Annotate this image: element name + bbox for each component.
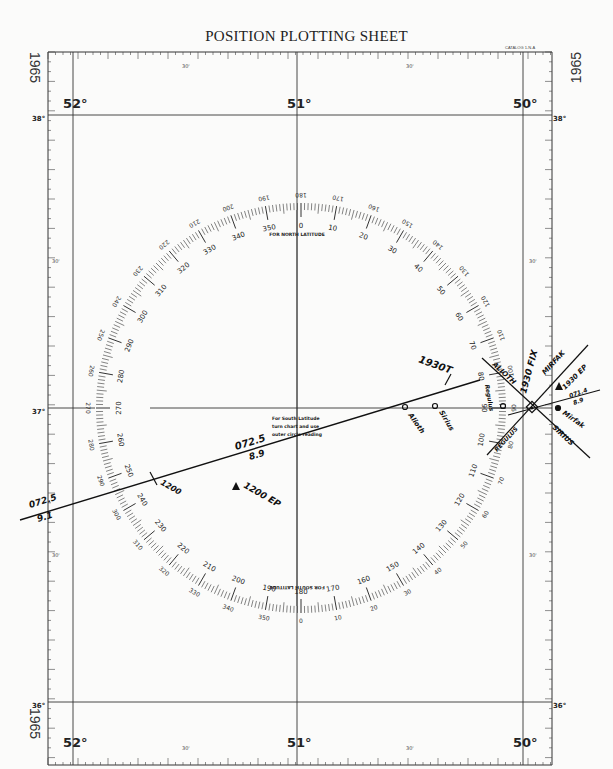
minute-label-left-upper: 30': [52, 258, 60, 264]
latitude-label-38-right: 38°: [553, 115, 566, 123]
frame-scale-ticks: [48, 52, 552, 765]
rose-degree-label: 280: [116, 369, 126, 384]
rose-outer-degree-label: 240: [111, 295, 123, 309]
rose-outer-degree-label: 40: [432, 566, 442, 576]
rose-outer-degree-label: 150: [400, 218, 414, 230]
rose-outer-degree-label: 280: [87, 439, 96, 452]
rose-outer-degree-label: 260: [87, 365, 96, 378]
alioth-point-icon: [403, 405, 408, 410]
center-note-line-2: turn chart and use: [272, 424, 319, 429]
longitude-label-52-top: 52°: [63, 96, 88, 111]
grid-lines: [48, 52, 552, 765]
rose-degree-label: 270: [115, 401, 123, 414]
rose-degree-label: 140: [411, 541, 426, 556]
rose-outer-degree-label: 50: [459, 539, 469, 549]
lop-sirius-label: SIRIUS: [551, 424, 576, 448]
minute-label-bottom-left: 30': [182, 745, 190, 751]
longitude-label-51-top: 51°: [287, 96, 312, 111]
rose-degree-label: 340: [231, 230, 246, 242]
rose-degree-label: 80: [476, 371, 485, 381]
rose-degree-label: 170: [326, 584, 341, 594]
plotting-sheet: POSITION PLOTTING SHEET CATALOG 1-N-A 19…: [0, 0, 613, 769]
plotting-chart: 52° 51° 50° 52° 51° 50° 38° 38° 37° 36° …: [0, 0, 613, 769]
rose-degree-label: 210: [201, 560, 217, 574]
rose-outer-degree-label: 220: [158, 239, 171, 252]
rose-outer-degree-label: 320: [158, 564, 171, 577]
minute-label-bottom-right: 30': [406, 745, 414, 751]
rose-degree-label: 110: [467, 463, 479, 478]
rose-degree-label: 50: [435, 285, 447, 297]
center-note: For South Latitude turn chart and use ou…: [272, 416, 322, 437]
ep-1200-label: 1200 EP: [242, 480, 283, 509]
minute-label-top-right: 30': [406, 63, 414, 69]
rose-degree-label: 10: [328, 224, 338, 233]
rose-outer-degree-label: 170: [331, 194, 344, 203]
rose-inner-labels: 0102030405060708090100110120130140150160…: [115, 222, 488, 596]
rose-outer-degree-label: 350: [258, 613, 271, 622]
rose-outer-degree-label: 330: [188, 586, 202, 598]
rose-outer-degree-label: 290: [96, 474, 107, 487]
time-1930-label: 1930T: [417, 354, 454, 377]
rose-outer-degree-label: 120: [479, 295, 491, 309]
rose-outer-degree-label: 190: [258, 194, 271, 203]
chart-frame: [48, 52, 552, 765]
center-note-line-1: For South Latitude: [272, 416, 319, 421]
mirfak-point-icon: [556, 406, 561, 411]
rose-degree-label: 240: [135, 492, 149, 508]
rose-outer-degree-label: 200: [222, 203, 235, 214]
mirfak-point-label: Mirfak: [561, 409, 587, 431]
tick-1930: [445, 374, 451, 385]
rose-degree-label: 20: [358, 231, 369, 242]
rose-degree-label: 250: [123, 463, 135, 478]
rose-outer-degree-label: 310: [132, 538, 145, 551]
rose-degree-label: 70: [467, 340, 478, 351]
rose-outer-degree-label: 250: [96, 329, 107, 342]
rose-degree-label: 0: [299, 222, 303, 230]
north-latitude-caption: FOR NORTH LATITUDE: [269, 232, 324, 237]
minute-label-right-upper: 30': [529, 258, 537, 264]
longitude-label-50-bottom: 50°: [513, 735, 538, 750]
rose-degree-label: 300: [136, 309, 150, 325]
rose-degree-label: 200: [231, 574, 246, 586]
rose-outer-degree-label: 130: [457, 265, 470, 278]
rose-outer-degree-label: 160: [367, 203, 380, 214]
alioth-point-label: Alioth: [406, 411, 427, 436]
rose-outer-degree-label: 20: [369, 603, 379, 612]
rose-degree-label: 60: [453, 311, 464, 323]
rose-outer-degree-label: 110: [495, 329, 506, 342]
longitude-label-52-bottom: 52°: [63, 735, 88, 750]
longitude-label-50-top: 50°: [513, 96, 538, 111]
lop-1200-distance: 9.1: [36, 510, 54, 524]
fix-1930-label: 1930 FIX: [518, 348, 539, 395]
rose-degree-label: 30: [386, 244, 398, 255]
rose-degree-label: 150: [385, 560, 401, 574]
rose-degree-label: 90: [480, 404, 488, 413]
rose-outer-degree-label: 90: [510, 404, 517, 412]
rose-outer-degree-label: 300: [111, 508, 123, 522]
rose-outer-degree-label: 230: [132, 265, 145, 278]
ep-1200-triangle: [232, 482, 240, 490]
rose-degree-label: 100: [477, 433, 487, 448]
rose-outer-degree-label: 10: [334, 613, 343, 621]
rose-outer-degree-label: 70: [496, 476, 505, 486]
latitude-label-36-left: 36°: [32, 702, 45, 710]
rose-degree-label: 130: [434, 518, 449, 533]
course-line: [20, 380, 480, 520]
fix-dot: [531, 407, 533, 409]
latitude-label-36-right: 36°: [553, 702, 566, 710]
lop-1200-course: 072.5: [28, 492, 58, 510]
rose-outer-degree-label: 270: [85, 402, 92, 414]
rose-outer-degree-label: 140: [431, 239, 444, 252]
latitude-label-38-left: 38°: [32, 115, 45, 123]
latitude-label-37-left: 37°: [32, 408, 45, 416]
rose-degree-label: 220: [175, 541, 190, 556]
rose-outer-degree-label: 0: [299, 617, 303, 624]
rose-outer-degree-label: 60: [480, 509, 490, 519]
minute-label-left-lower: 30': [52, 552, 60, 558]
rose-degree-label: 40: [412, 262, 424, 274]
longitude-label-51-bottom: 51°: [287, 735, 312, 750]
south-latitude-caption: FOR SOUTH LATITUDE: [269, 585, 324, 590]
rose-outer-degree-label: 210: [188, 218, 202, 230]
rose-outer-degree-label: 180: [295, 192, 307, 199]
rose-degree-label: 330: [202, 243, 218, 257]
